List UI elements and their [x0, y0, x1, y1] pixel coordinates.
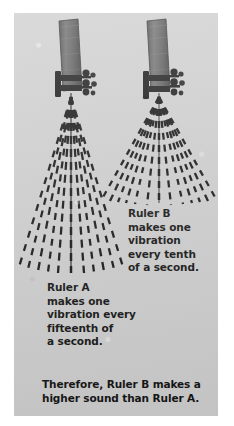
conclusion-caption: Therefore, Ruler B makes a higher sound …: [42, 378, 212, 405]
ruler-b-assembly: [102, 19, 216, 205]
ruler-b-clamp-knob-4: [179, 80, 185, 86]
ruler-a-clamp-arm-lower: [60, 85, 82, 91]
illustration-panel: Ruler B makes one vibration every tenth …: [14, 13, 218, 416]
ruler-a-assembly: [19, 19, 123, 273]
ruler-b-clamp-knob-3: [170, 78, 178, 86]
ruler-a-clamp-knob-5: [83, 89, 90, 96]
ruler-b-clamp-knob-6: [179, 91, 184, 96]
ruler-b-clamp-arm-lower: [148, 86, 170, 92]
ruler-b-clamp-knob-2: [178, 71, 183, 76]
ruler-a-clamp-knob-4: [91, 81, 97, 87]
ruler-a-clamp-arm-upper: [60, 75, 82, 81]
ruler-a-clamp-jaw: [55, 71, 61, 97]
ruler-a-clamp-knob-2: [90, 72, 95, 77]
ruler-b-clamp-arm-upper: [148, 75, 170, 81]
ruler-b-clamp-knob-1: [170, 68, 177, 75]
ruler-a-clamp-knob-1: [82, 69, 89, 76]
ruler-a-caption: Ruler A makes one vibration every fiftee…: [47, 281, 151, 349]
figure-root: Ruler B makes one vibration every tenth …: [0, 0, 234, 426]
ruler-b-caption: Ruler B makes one vibration every tenth …: [128, 207, 218, 275]
ruler-a-clamp-knob-3: [82, 79, 90, 87]
ruler-b-clamp-knob-5: [171, 89, 178, 96]
ruler-a-clamp-knob-6: [91, 91, 96, 96]
